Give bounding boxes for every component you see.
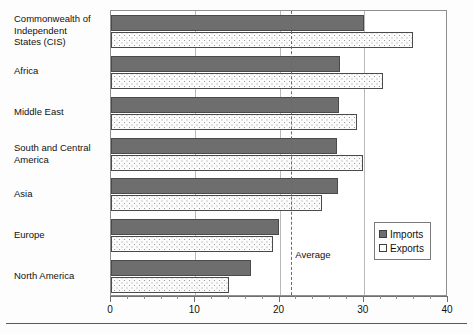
bar-exports [111, 195, 322, 211]
category-label-line: States (CIS) [14, 36, 110, 48]
legend-label: Imports [390, 229, 423, 240]
category-label: South and CentralAmerica [14, 142, 110, 165]
category-label: Commonwealth ofIndependentStates (CIS) [14, 13, 110, 48]
bar-group [111, 56, 448, 89]
legend-item: Imports [379, 227, 424, 241]
x-tick-label: 10 [189, 304, 200, 315]
bar-exports [111, 73, 383, 89]
x-tick-minor [228, 296, 229, 299]
bar-imports [111, 15, 364, 31]
bar-exports [111, 155, 363, 171]
chart-figure: Commonwealth ofIndependentStates (CIS)Af… [0, 0, 473, 335]
average-line [291, 11, 292, 295]
x-tick-minor [346, 296, 347, 299]
category-label-line: America [14, 153, 110, 165]
bar-imports [111, 260, 251, 276]
x-tick-major [194, 296, 195, 302]
category-label-line: South and Central [14, 142, 110, 154]
category-label-line: Europe [14, 229, 110, 241]
x-tick-label: 0 [107, 304, 113, 315]
x-tick-minor [312, 296, 313, 299]
x-tick-major [363, 296, 364, 302]
x-tick-minor [380, 296, 381, 299]
x-axis: 010203040 [110, 296, 447, 304]
x-tick-minor [262, 296, 263, 299]
x-tick-minor [245, 296, 246, 299]
bar-group [111, 178, 448, 211]
x-tick-minor [211, 296, 212, 299]
footer-rule [6, 323, 467, 324]
legend-label: Exports [390, 243, 424, 254]
x-tick-minor [161, 296, 162, 299]
x-tick-minor [295, 296, 296, 299]
category-label: Africa [14, 66, 110, 78]
x-tick-minor [396, 296, 397, 299]
category-label-line: Commonwealth of [14, 13, 110, 25]
x-tick-label: 20 [273, 304, 284, 315]
open-square-icon [379, 244, 387, 252]
x-tick-minor [177, 296, 178, 299]
category-label: Asia [14, 188, 110, 200]
average-label: Average [295, 249, 330, 260]
bar-exports [111, 114, 357, 130]
x-tick-major [110, 296, 111, 302]
bar-group [111, 97, 448, 130]
x-tick-minor [430, 296, 431, 299]
category-label-line: Africa [14, 66, 110, 78]
filled-square-icon [379, 230, 387, 238]
bar-imports [111, 138, 337, 154]
bar-imports [111, 178, 338, 194]
category-label: Europe [14, 229, 110, 241]
category-label: North America [14, 270, 110, 282]
x-tick-minor [413, 296, 414, 299]
category-label-line: North America [14, 270, 110, 282]
bar-exports [111, 32, 413, 48]
category-label-line: Independent [14, 25, 110, 37]
bar-exports [111, 277, 229, 293]
bar-group [111, 260, 448, 293]
chart-legend: ImportsExports [374, 222, 431, 260]
category-label-line: Asia [14, 188, 110, 200]
category-label: Middle East [14, 106, 110, 118]
x-tick-label: 30 [357, 304, 368, 315]
x-tick-label: 40 [441, 304, 452, 315]
bar-exports [111, 236, 273, 252]
x-tick-minor [329, 296, 330, 299]
bar-group [111, 138, 448, 171]
x-tick-major [447, 296, 448, 302]
x-tick-major [279, 296, 280, 302]
bar-imports [111, 219, 279, 235]
x-tick-minor [127, 296, 128, 299]
bar-imports [111, 97, 339, 113]
x-tick-minor [144, 296, 145, 299]
category-label-line: Middle East [14, 106, 110, 118]
category-axis: Commonwealth ofIndependentStates (CIS)Af… [14, 10, 110, 296]
bar-imports [111, 56, 340, 72]
bar-group [111, 15, 448, 48]
legend-item: Exports [379, 241, 424, 255]
